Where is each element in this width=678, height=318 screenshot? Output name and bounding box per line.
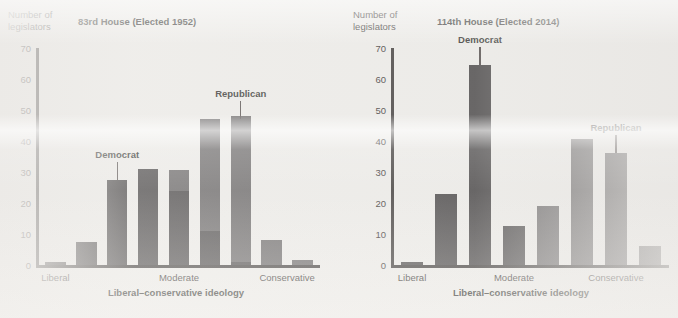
bar-segment-republican (571, 139, 593, 265)
y-axis-tick-label: 50 (339, 105, 386, 116)
x-axis-title: Liberal–conservative ideology (108, 287, 244, 298)
bar (639, 246, 661, 265)
y-axis-tick-label: 60 (0, 74, 31, 85)
bar (469, 65, 491, 265)
bar-segment-republican (261, 240, 281, 265)
chart-panel-114th-house: Number of legislators 114th House (Elect… (339, 0, 678, 318)
party-annotation-leader-line (615, 135, 616, 153)
party-annotation-label: Democrat (95, 149, 139, 160)
party-annotation-leader-line (117, 162, 118, 180)
y-axis-tick-label: 70 (0, 43, 31, 54)
y-axis-tick-label: 70 (339, 43, 386, 54)
y-axis-tick-label: 10 (0, 229, 31, 240)
x-axis-line (36, 265, 320, 268)
bar (292, 260, 312, 265)
bar (435, 194, 457, 265)
x-axis-tick-label: Liberal (41, 272, 70, 283)
party-annotation-label: Republican (590, 122, 641, 133)
y-axis-tick-label: 60 (339, 74, 386, 85)
plot-area-left: 010203040506070LiberalModerateConservati… (0, 0, 339, 318)
x-axis-tick-label: Moderate (159, 272, 199, 283)
x-axis-tick-label: Conservative (259, 272, 314, 283)
bar-segment-democrat (401, 262, 423, 265)
y-axis-tick-label: 40 (339, 136, 386, 147)
y-axis-tick-label: 30 (339, 167, 386, 178)
bar (45, 262, 65, 265)
bar (200, 119, 220, 265)
bar-segment-democrat (45, 262, 65, 265)
bar-segment-republican (292, 260, 312, 265)
bar (169, 170, 189, 265)
bar (107, 180, 127, 265)
bar (231, 116, 251, 265)
bar-segment-republican (537, 206, 559, 265)
bar-segment-democrat (107, 180, 127, 265)
y-axis-line (391, 48, 394, 268)
x-axis-tick-label: Liberal (398, 272, 427, 283)
party-annotation-leader-line (479, 47, 480, 65)
x-axis-tick-label: Conservative (588, 272, 643, 283)
bar (503, 226, 525, 265)
bar (537, 206, 559, 265)
bar (261, 240, 281, 265)
x-axis-tick-label: Moderate (494, 272, 534, 283)
x-axis-title: Liberal–conservative ideology (453, 287, 589, 298)
plot-area-right: 010203040506070LiberalModerateConservati… (339, 0, 678, 318)
party-annotation-label: Republican (215, 88, 266, 99)
chart-panel-83rd-house: Number of legislators 83rd House (Electe… (0, 0, 339, 318)
y-axis-tick-label: 10 (339, 229, 386, 240)
bar-segment-democrat (76, 242, 96, 265)
party-annotation-leader-line (240, 101, 241, 119)
y-axis-line (36, 48, 39, 268)
y-axis-tick-label: 20 (0, 198, 31, 209)
bar-segment-democrat (435, 194, 457, 265)
bar (138, 169, 158, 265)
bar (605, 153, 627, 265)
y-axis-tick-label: 20 (339, 198, 386, 209)
x-axis-line (391, 265, 669, 268)
bar (76, 242, 96, 265)
bar-segment-democrat (469, 65, 491, 265)
bar-segment-democrat (503, 226, 525, 265)
bar (401, 262, 423, 265)
bar-segment-democrat (231, 262, 251, 265)
bar (571, 139, 593, 265)
bar-segment-republican (200, 119, 220, 231)
y-axis-tick-label: 30 (0, 167, 31, 178)
bar-segment-republican (231, 116, 251, 262)
party-annotation-label: Democrat (458, 34, 502, 45)
bar-segment-republican (605, 153, 627, 265)
y-axis-tick-label: 40 (0, 136, 31, 147)
y-axis-tick-label: 50 (0, 105, 31, 116)
bar-segment-democrat (200, 231, 220, 265)
bar-segment-republican (639, 246, 661, 265)
bar-segment-democrat (169, 191, 189, 265)
y-axis-tick-label: 0 (339, 260, 386, 271)
bar-segment-republican (169, 170, 189, 190)
y-axis-tick-label: 0 (0, 260, 31, 271)
bar-segment-democrat (138, 169, 158, 265)
